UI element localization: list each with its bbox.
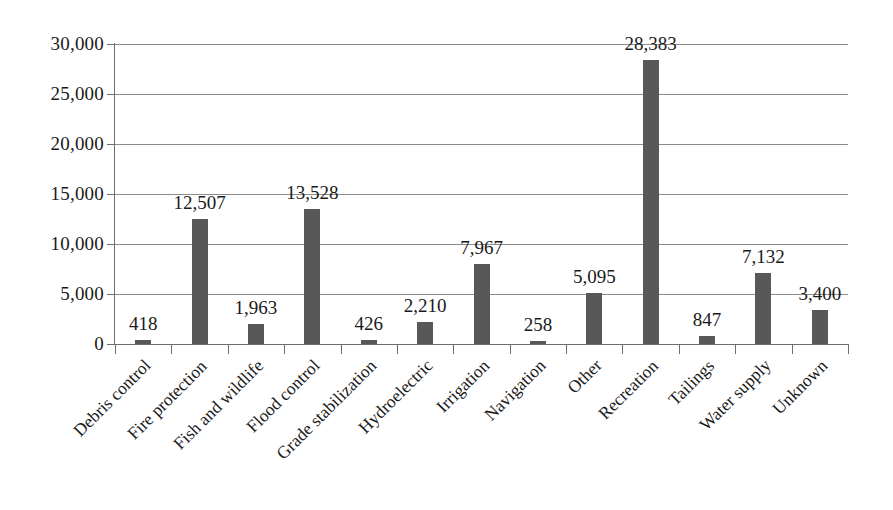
x-axis-tick: [453, 345, 454, 354]
x-axis-category-label: Navigation: [481, 356, 549, 424]
bar-chart: 05,00010,00015,00020,00025,00030,000 418…: [0, 0, 893, 510]
y-axis-tick: [107, 144, 114, 145]
bar: [304, 209, 320, 344]
bar: [474, 264, 490, 344]
y-axis-tick: [107, 344, 114, 345]
x-axis-category-label: Tailings: [665, 356, 717, 408]
x-axis-category-label: Other: [564, 356, 605, 397]
bar-value-label: 7,132: [718, 247, 808, 266]
x-axis-tick: [848, 345, 849, 354]
bar: [812, 310, 828, 344]
x-axis-tick: [341, 345, 342, 354]
y-axis-tick-label: 0: [4, 334, 104, 353]
y-axis-tick-label: 5,000: [4, 284, 104, 303]
gridline: [115, 94, 848, 95]
y-axis-tick: [107, 194, 114, 195]
bar-value-label: 12,507: [155, 193, 245, 212]
gridline: [115, 144, 848, 145]
x-axis-tick: [792, 345, 793, 354]
x-axis-tick: [735, 345, 736, 354]
y-axis-tick: [107, 94, 114, 95]
bar-value-label: 258: [493, 315, 583, 334]
bar-value-label: 7,967: [437, 238, 527, 257]
x-axis-tick: [171, 345, 172, 354]
x-axis-tick: [284, 345, 285, 354]
x-axis-category-label: Recreation: [595, 356, 661, 422]
y-axis-line: [114, 43, 115, 345]
bar: [192, 219, 208, 344]
bar-value-label: 28,383: [606, 34, 696, 53]
bar-value-label: 418: [98, 314, 188, 333]
bar: [699, 336, 715, 344]
y-axis-tick-label: 15,000: [4, 184, 104, 203]
x-axis-tick: [566, 345, 567, 354]
x-axis-category-label: Grade stabilization: [273, 356, 380, 463]
x-axis-tick: [115, 345, 116, 354]
x-axis-line: [114, 344, 849, 345]
bar: [586, 293, 602, 344]
y-axis-tick: [107, 294, 114, 295]
bar-value-label: 13,528: [267, 183, 357, 202]
bar-value-label: 3,400: [775, 284, 865, 303]
gridline: [115, 44, 848, 45]
x-axis-tick: [510, 345, 511, 354]
x-axis-tick: [228, 345, 229, 354]
y-axis-tick-label: 30,000: [4, 34, 104, 53]
y-axis-tick: [107, 244, 114, 245]
x-axis-tick: [397, 345, 398, 354]
x-axis-tick: [622, 345, 623, 354]
bar: [755, 273, 771, 344]
x-axis-tick: [679, 345, 680, 354]
bar-value-label: 2,210: [380, 296, 470, 315]
bar: [417, 322, 433, 344]
bar-value-label: 1,963: [211, 298, 301, 317]
y-axis-tick-label: 25,000: [4, 84, 104, 103]
y-axis-tick: [107, 44, 114, 45]
y-axis-tick-label: 20,000: [4, 134, 104, 153]
y-axis-tick-label: 10,000: [4, 234, 104, 253]
bar-value-label: 5,095: [549, 267, 639, 286]
x-axis-category-label: Unknown: [769, 356, 831, 418]
bar: [248, 324, 264, 344]
bar-value-label: 426: [324, 314, 414, 333]
bar-value-label: 847: [662, 310, 752, 329]
bar: [643, 60, 659, 344]
